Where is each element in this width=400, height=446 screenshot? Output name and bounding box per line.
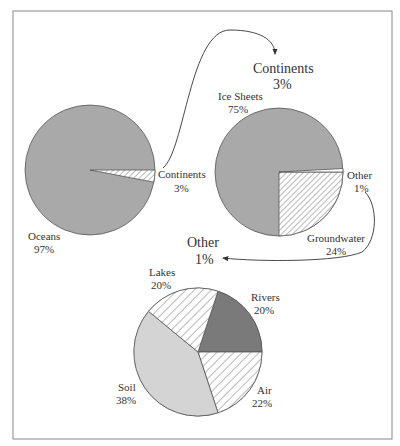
label-ice-sheets-pct: 75% [228, 103, 248, 115]
pie-other-breakdown [134, 288, 262, 416]
pie-continents-breakdown [215, 108, 343, 236]
slice-groundwater [279, 172, 343, 236]
label-oceans-name: Oceans [28, 230, 60, 242]
label-other-small-name: Other [347, 169, 372, 181]
label-oceans-pct: 97% [34, 243, 54, 255]
title-other-pct: 1% [195, 252, 214, 267]
label-soil-name: Soil [118, 381, 136, 393]
label-groundwater-name: Groundwater [307, 232, 365, 244]
label-continents-pct: 3% [174, 182, 189, 194]
label-rivers-pct: 20% [254, 304, 274, 316]
label-continents-name: Continents [158, 168, 206, 180]
label-lakes-name: Lakes [149, 266, 175, 278]
label-ice-sheets-name: Ice Sheets [218, 90, 263, 102]
pie-oceans-continents [25, 105, 155, 235]
label-groundwater-pct: 24% [326, 245, 346, 257]
label-air-name: Air [257, 384, 272, 396]
label-rivers-name: Rivers [251, 291, 280, 303]
water-distribution-figure: Continents 3% Oceans 97% Continents 3% I… [0, 0, 400, 446]
label-other-small-pct: 1% [354, 182, 369, 194]
label-soil-pct: 38% [116, 394, 136, 406]
title-continents-name: Continents [253, 61, 314, 76]
title-other-name: Other [187, 235, 219, 250]
label-air-pct: 22% [252, 397, 272, 409]
title-continents-pct: 3% [273, 77, 292, 92]
label-lakes-pct: 20% [151, 279, 171, 291]
